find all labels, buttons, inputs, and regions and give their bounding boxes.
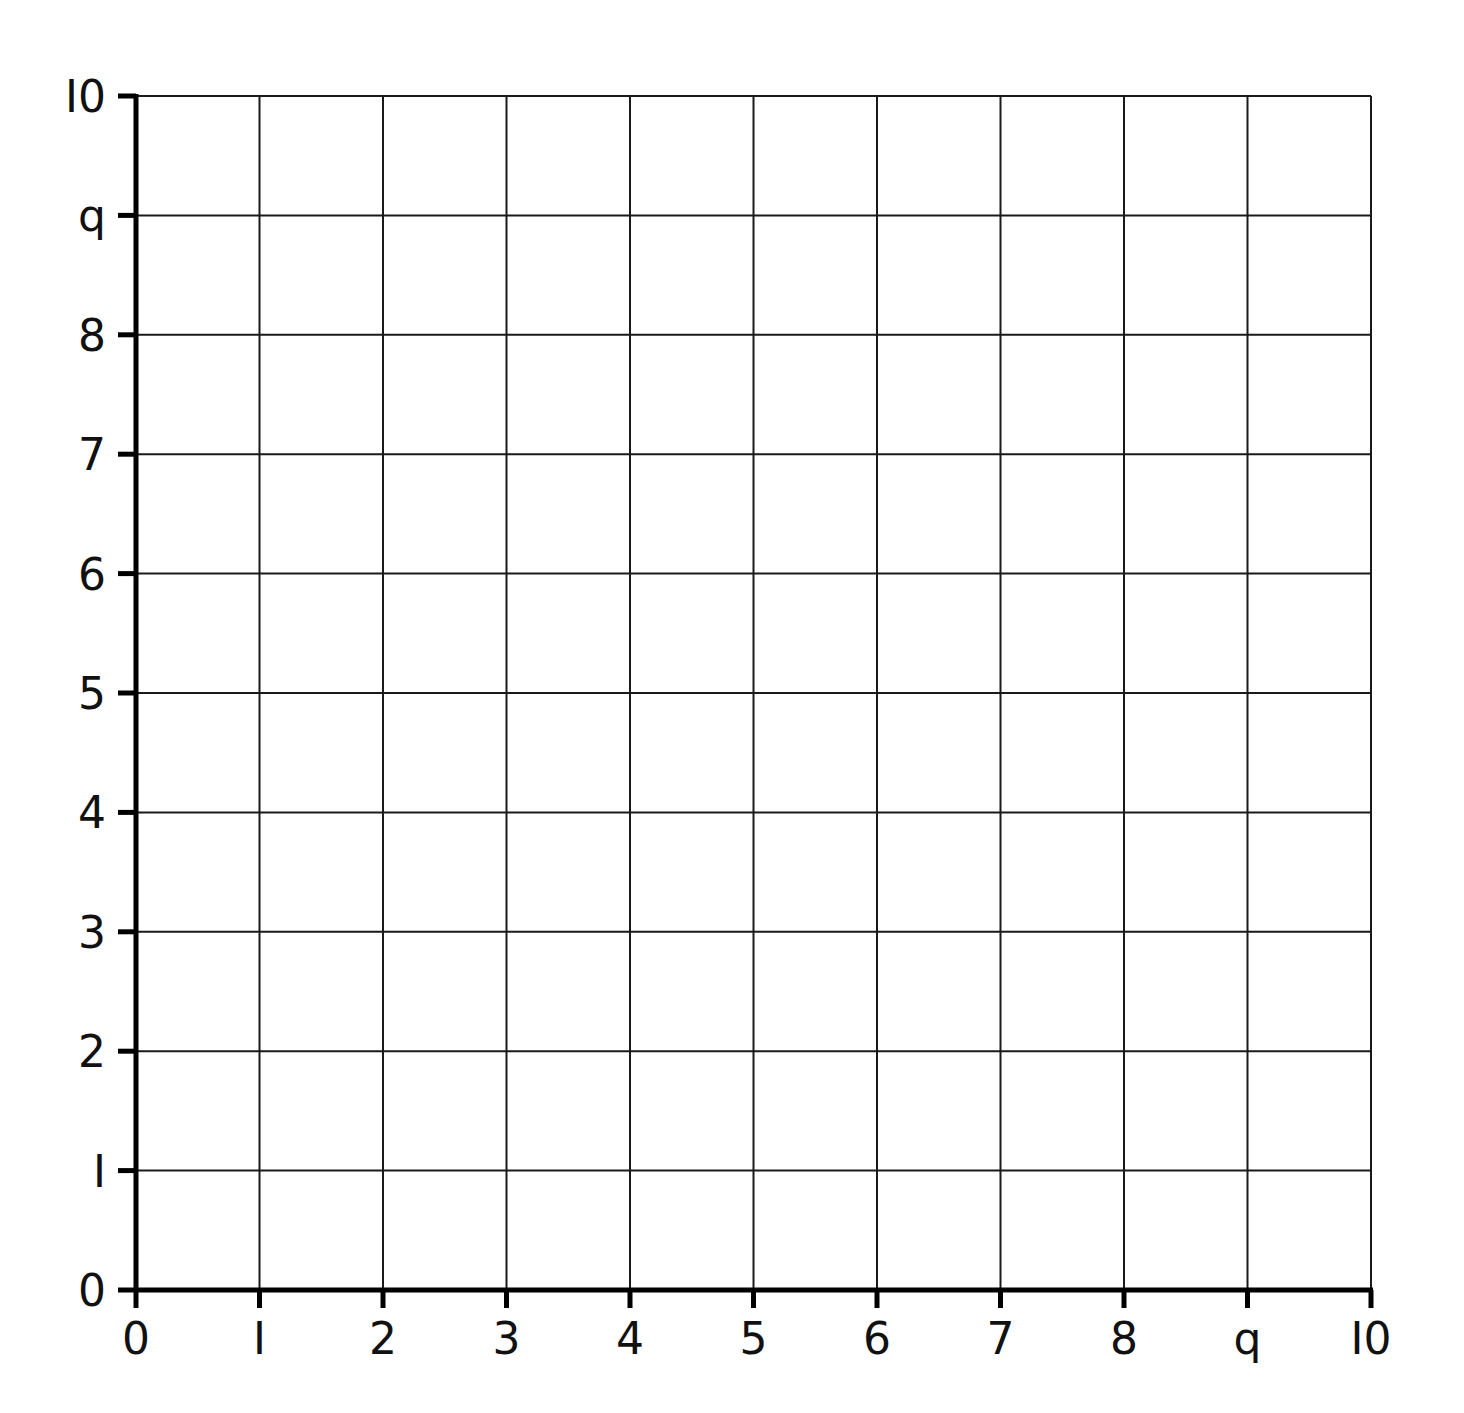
- y-tick-label: 5: [78, 668, 106, 719]
- x-tick-label: I0: [1351, 1313, 1392, 1364]
- x-tick-label: 0: [122, 1313, 150, 1364]
- coordinate-grid: 0I2345678qI0 0I2345678qI0: [0, 0, 1464, 1413]
- x-tick-label: I: [253, 1313, 266, 1364]
- y-axis-ticks: 0I2345678qI0: [65, 71, 136, 1316]
- grid-lines: [136, 96, 1371, 1290]
- y-tick-label: 3: [78, 907, 106, 958]
- y-tick-label: 2: [78, 1026, 106, 1077]
- y-tick-label: I: [93, 1146, 106, 1197]
- x-tick-label: q: [1234, 1313, 1262, 1364]
- x-tick-label: 7: [987, 1313, 1015, 1364]
- x-tick-label: 8: [1110, 1313, 1138, 1364]
- y-tick-label: q: [78, 190, 106, 241]
- x-axis-ticks: 0I2345678qI0: [122, 1290, 1391, 1364]
- y-tick-label: I0: [65, 71, 106, 122]
- y-tick-label: 8: [78, 310, 106, 361]
- y-tick-label: 0: [78, 1265, 106, 1316]
- x-tick-label: 2: [369, 1313, 397, 1364]
- x-tick-label: 4: [616, 1313, 644, 1364]
- y-tick-label: 7: [78, 429, 106, 480]
- x-tick-label: 6: [863, 1313, 891, 1364]
- y-tick-label: 6: [78, 549, 106, 600]
- x-tick-label: 3: [493, 1313, 521, 1364]
- x-tick-label: 5: [740, 1313, 768, 1364]
- y-tick-label: 4: [78, 787, 106, 838]
